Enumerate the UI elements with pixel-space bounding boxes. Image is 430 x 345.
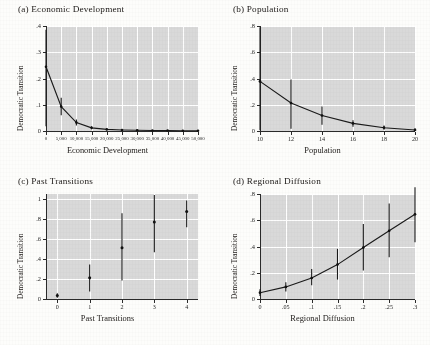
fit-line xyxy=(260,81,415,130)
x-axis-tick xyxy=(90,300,91,303)
y-axis-label: Democratic Transition xyxy=(230,234,239,299)
panel-a-plot: 05,00010,00015,00020,00025,00030,00035,0… xyxy=(0,0,215,172)
x-axis-tick xyxy=(384,132,385,135)
data-point-marker xyxy=(259,291,262,294)
y-axis-tick-label: .8 xyxy=(234,190,255,197)
data-point-marker xyxy=(121,246,124,249)
panel-c-plot: 012340.2.4.6.81Past TransitionsDemocrati… xyxy=(0,172,215,345)
y-axis-label: Democratic Transition xyxy=(16,66,25,131)
x-axis-tick xyxy=(122,132,123,135)
x-axis-tick xyxy=(363,300,364,303)
x-axis-tick xyxy=(415,132,416,135)
data-point-marker xyxy=(388,229,391,232)
data-point-marker xyxy=(60,105,63,108)
data-point-marker xyxy=(414,129,417,132)
x-axis-tick xyxy=(322,132,323,135)
x-axis-tick xyxy=(291,132,292,135)
data-series xyxy=(46,26,198,131)
x-axis-tick xyxy=(286,300,287,303)
data-point-marker xyxy=(75,121,78,124)
y-axis-label: Democratic Transition xyxy=(16,234,25,299)
data-point-marker xyxy=(362,246,365,249)
y-axis-tick-label: .6 xyxy=(234,216,255,223)
x-axis-tick xyxy=(137,132,138,135)
panel-a-economic-development: (a) Economic Development 05,00010,00015,… xyxy=(0,0,215,172)
data-series xyxy=(260,194,415,299)
data-point-marker xyxy=(88,276,91,279)
figure-panel-grid: (a) Economic Development 05,00010,00015,… xyxy=(0,0,430,345)
x-axis-tick xyxy=(152,132,153,135)
x-axis-tick-label: 4 xyxy=(165,304,209,310)
data-point-marker xyxy=(321,114,324,117)
data-point-marker xyxy=(151,129,154,132)
x-axis-label: Economic Development xyxy=(0,146,215,155)
data-point-marker xyxy=(45,65,48,68)
panel-d-plot: 0.05.1.15.2.25.30.2.4.6.8Regional Diffus… xyxy=(215,172,430,345)
y-axis-tick-label: 1 xyxy=(20,195,41,202)
x-axis-tick-label: 20 xyxy=(393,136,430,142)
data-point-marker xyxy=(90,127,93,130)
x-axis-tick xyxy=(260,300,261,303)
x-axis-tick xyxy=(92,132,93,135)
x-axis-tick xyxy=(183,132,184,135)
panel-c-past-transitions: (c) Past Transitions 012340.2.4.6.81Past… xyxy=(0,172,215,345)
x-axis-tick xyxy=(312,300,313,303)
data-point-marker xyxy=(185,210,188,213)
x-axis-tick xyxy=(338,300,339,303)
data-point-marker xyxy=(310,277,313,280)
x-axis-tick xyxy=(61,132,62,135)
x-axis-tick xyxy=(154,300,155,303)
x-axis-tick xyxy=(198,132,199,135)
data-point-marker xyxy=(121,129,124,132)
data-point-marker xyxy=(336,263,339,266)
x-axis-tick xyxy=(46,132,47,135)
data-series xyxy=(260,26,415,131)
data-point-marker xyxy=(383,126,386,129)
gridline-vertical xyxy=(415,26,416,131)
y-axis-label: Democratic Transition xyxy=(230,66,239,131)
panel-b-plot: 1012141618200.2.4.6.8PopulationDemocrati… xyxy=(215,0,430,172)
x-axis-label: Past Transitions xyxy=(0,314,215,323)
data-point-marker xyxy=(259,80,262,83)
y-axis-tick-label: .4 xyxy=(20,22,41,29)
data-point-marker xyxy=(56,294,59,297)
x-axis-tick xyxy=(415,300,416,303)
data-point-marker xyxy=(182,129,185,132)
x-axis-tick xyxy=(57,300,58,303)
y-axis-tick-label: .8 xyxy=(234,22,255,29)
y-axis-tick xyxy=(43,299,46,300)
data-point-marker xyxy=(290,102,293,105)
x-axis-tick xyxy=(260,132,261,135)
x-axis-label: Population xyxy=(215,146,430,155)
x-axis-label: Regional Diffusion xyxy=(215,314,430,323)
y-axis-tick xyxy=(43,131,46,132)
y-axis-tick xyxy=(257,131,260,132)
data-point-marker xyxy=(153,221,156,224)
x-axis-tick-label: 50,000 xyxy=(176,136,220,141)
data-point-marker xyxy=(136,129,139,132)
data-point-marker xyxy=(284,286,287,289)
x-axis-tick-label: .3 xyxy=(393,304,430,310)
y-axis-tick xyxy=(257,299,260,300)
x-axis-tick xyxy=(187,300,188,303)
x-axis-tick xyxy=(107,132,108,135)
y-axis-tick-label: .3 xyxy=(20,48,41,55)
x-axis-tick xyxy=(122,300,123,303)
data-point-marker xyxy=(166,129,169,132)
data-series xyxy=(46,194,198,299)
x-axis-tick xyxy=(353,132,354,135)
x-axis-line xyxy=(260,131,415,132)
data-point-marker xyxy=(414,213,417,216)
y-axis-tick-label: .6 xyxy=(234,48,255,55)
gridline-vertical xyxy=(198,26,199,131)
data-point-marker xyxy=(197,129,200,132)
fit-line xyxy=(46,67,198,131)
panel-b-population: (b) Population 1012141618200.2.4.6.8Popu… xyxy=(215,0,430,172)
x-axis-tick xyxy=(168,132,169,135)
y-axis-tick-label: .8 xyxy=(20,215,41,222)
x-axis-tick xyxy=(389,300,390,303)
panel-d-regional-diffusion: (d) Regional Diffusion 0.05.1.15.2.25.30… xyxy=(215,172,430,345)
data-point-marker xyxy=(106,128,109,131)
data-point-marker xyxy=(352,122,355,125)
x-axis-tick xyxy=(76,132,77,135)
